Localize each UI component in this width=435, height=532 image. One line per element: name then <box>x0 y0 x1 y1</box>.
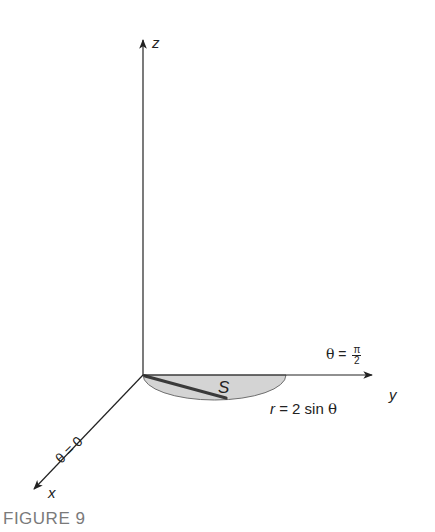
fraction-denominator: 2 <box>352 356 361 366</box>
theta-pi-over-2-label: θ = π2 <box>326 345 361 366</box>
figure-caption: FIGURE 9 <box>3 509 85 529</box>
z-axis-label: z <box>152 34 160 51</box>
x-axis-label: x <box>48 484 56 501</box>
curve-equation-label: r = 2 sin θ <box>270 400 337 418</box>
region-s-label: S <box>218 378 229 398</box>
fraction-pi-over-2: π2 <box>352 345 361 366</box>
y-axis-label: y <box>389 386 397 403</box>
x-axis <box>34 375 143 489</box>
figure-9: z y x θ = π2 S r = 2 sin θ θ = 0 FIGURE … <box>0 0 435 532</box>
curve-rest: = 2 sin <box>275 400 328 417</box>
equals-sign: = <box>334 346 350 362</box>
curve-theta: θ <box>328 400 337 418</box>
